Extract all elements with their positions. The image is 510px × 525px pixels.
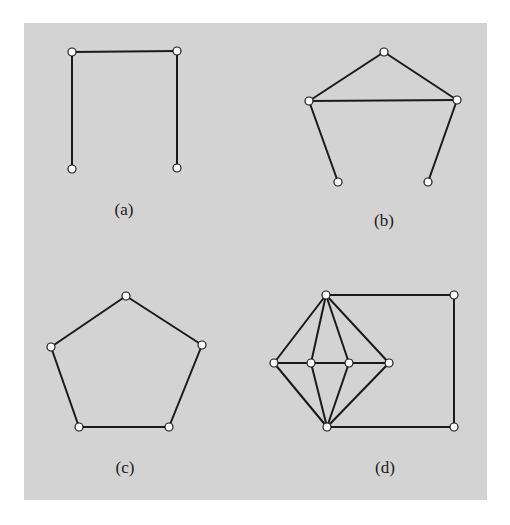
graph-edge <box>428 100 457 182</box>
graph-a-label: (a) <box>115 200 134 220</box>
graph-vertex <box>345 359 353 367</box>
graph-vertex <box>173 164 181 172</box>
graph-edge <box>309 52 384 101</box>
graph-vertex <box>450 423 458 431</box>
graph-edge <box>72 51 177 52</box>
graph-figure <box>0 0 510 525</box>
graph-edge <box>327 363 389 427</box>
graph-vertex <box>453 96 461 104</box>
graph-vertex <box>323 423 331 431</box>
graph-edge <box>51 296 126 347</box>
graph-a <box>68 47 181 173</box>
graph-d-label: (d) <box>375 458 395 478</box>
graph-vertex <box>450 291 458 299</box>
graph-b <box>305 48 461 186</box>
graph-vertex <box>307 359 315 367</box>
graph-edge <box>309 101 338 182</box>
graph-c-label: (c) <box>116 458 135 478</box>
graph-edge <box>326 295 349 363</box>
graph-vertex <box>322 291 330 299</box>
graph-b-label: (b) <box>374 211 394 231</box>
graph-c <box>47 292 206 431</box>
graph-edge <box>169 345 202 427</box>
graph-vertex <box>198 341 206 349</box>
graph-vertex <box>173 47 181 55</box>
graph-vertex <box>334 178 342 186</box>
graph-vertex <box>75 423 83 431</box>
graph-vertex <box>305 97 313 105</box>
graph-edge <box>51 347 79 427</box>
graph-vertex <box>68 165 76 173</box>
graph-edge <box>326 295 389 363</box>
graph-edge <box>309 100 457 101</box>
graph-vertex <box>385 359 393 367</box>
graph-vertex <box>122 292 130 300</box>
graph-vertex <box>47 343 55 351</box>
graph-vertex <box>424 178 432 186</box>
graph-edge <box>384 52 457 100</box>
graph-vertex <box>165 423 173 431</box>
graph-edge <box>327 363 349 427</box>
graph-vertex <box>270 359 278 367</box>
graph-vertex <box>68 48 76 56</box>
graph-edge <box>126 296 202 345</box>
graph-d <box>270 291 458 431</box>
graph-vertex <box>380 48 388 56</box>
